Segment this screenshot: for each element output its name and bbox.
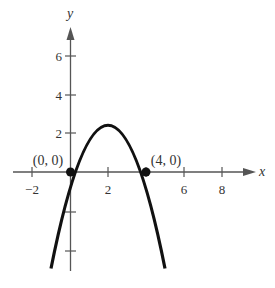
x-axis-arrow-icon: [243, 168, 256, 176]
y-tick-label: 6: [56, 49, 63, 64]
x-axis-label: x: [258, 164, 266, 179]
y-tick-label: 4: [56, 88, 63, 103]
y-tick-label: 2: [56, 126, 63, 141]
x-tick-label: −2: [25, 182, 39, 197]
point-label-origin: (0, 0): [33, 153, 64, 169]
x-tick-label: 2: [105, 182, 112, 197]
x-tick-label: 6: [181, 182, 188, 197]
point-4-0: [142, 168, 151, 177]
point-label-4-0: (4, 0): [151, 153, 182, 169]
point-origin: [66, 168, 75, 177]
parabola-chart: −2 2 6 8 x 6 4 2 y (0, 0) (4, 0): [0, 0, 275, 288]
y-axis-label: y: [65, 6, 74, 21]
y-axis-arrow-icon: [67, 27, 75, 40]
x-tick-label: 8: [219, 182, 226, 197]
